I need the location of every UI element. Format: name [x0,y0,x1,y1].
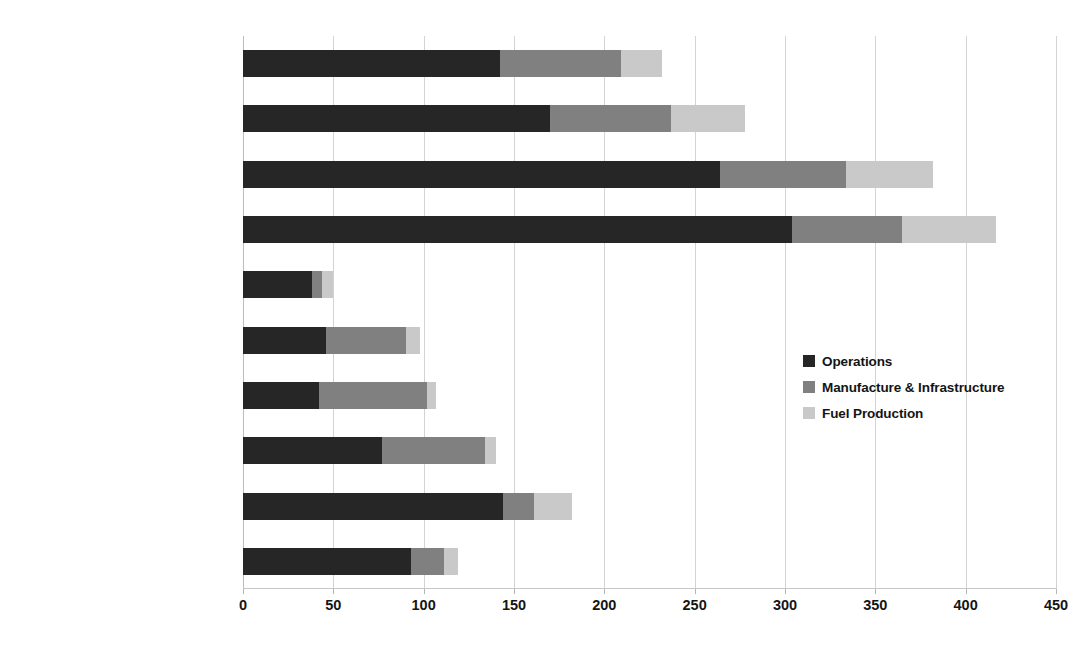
bar-segment-fuel-production[interactable] [671,105,745,132]
tick-mark-150 [514,589,515,594]
tick-mark-200 [604,589,605,594]
bar-row: Gasoline Pickup [243,147,1056,202]
bar-row: Urban Diesel Bus (Off Peak) [243,202,1056,257]
stacked-bar-chart: Gasoline SedanGasoline SUVGasoline Picku… [0,0,1092,652]
bar-segment-operations[interactable] [243,327,326,354]
x-tick-label-400: 400 [954,597,978,613]
bar-segment-manufacture-infrastructure[interactable] [326,327,405,354]
stacked-bar[interactable] [243,50,662,77]
legend-item[interactable]: Manufacture & Infrastructure [803,374,1004,400]
bar-segment-manufacture-infrastructure[interactable] [319,382,427,409]
bar-segment-fuel-production[interactable] [846,161,933,188]
x-tick-label-250: 250 [683,597,707,613]
bar-segment-manufacture-infrastructure[interactable] [312,271,323,298]
bar-segment-manufacture-infrastructure[interactable] [411,548,444,575]
stacked-bar[interactable] [243,382,436,409]
x-tick-label-50: 50 [325,597,341,613]
bar-segment-operations[interactable] [243,382,319,409]
bar-segment-manufacture-infrastructure[interactable] [720,161,846,188]
bar-row: Small Aircraft [243,478,1056,533]
legend-label: Fuel Production [822,406,923,421]
tick-mark-450 [1056,589,1057,594]
bar-segment-operations[interactable] [243,548,411,575]
x-tick-label-450: 450 [1044,597,1068,613]
bar-segment-operations[interactable] [243,50,500,77]
tick-mark-300 [785,589,786,594]
legend-swatch-icon [803,407,815,419]
bar-segment-manufacture-infrastructure[interactable] [550,105,671,132]
bar-row: Large Aircraft [243,534,1056,589]
bar-segment-fuel-production[interactable] [534,493,572,520]
tick-mark-350 [875,589,876,594]
bar-segment-manufacture-infrastructure[interactable] [500,50,621,77]
bar-row: Urban Diesel Bus (Peak) [243,257,1056,312]
bar-segment-fuel-production[interactable] [444,548,458,575]
gridline-450 [1056,36,1057,589]
bar-row: Gasoline Sedan [243,36,1056,91]
stacked-bar[interactable] [243,548,458,575]
x-tick-label-150: 150 [502,597,526,613]
tick-mark-250 [695,589,696,594]
x-tick-label-350: 350 [863,597,887,613]
x-tick-label-100: 100 [412,597,436,613]
plot-area: Gasoline SedanGasoline SUVGasoline Picku… [243,36,1056,589]
bar-row: Light Rail (Boston Green Line) [243,423,1056,478]
bar-row: Gasoline SUV [243,91,1056,146]
stacked-bar[interactable] [243,161,933,188]
bar-segment-manufacture-infrastructure[interactable] [792,216,902,243]
x-tick-label-200: 200 [592,597,616,613]
bar-segment-operations[interactable] [243,437,382,464]
chart-legend: OperationsManufacture & InfrastructureFu… [803,348,1004,426]
bar-segment-operations[interactable] [243,161,720,188]
legend-swatch-icon [803,355,815,367]
bar-segment-operations[interactable] [243,216,792,243]
bar-segment-operations[interactable] [243,271,312,298]
bar-segment-manufacture-infrastructure[interactable] [382,437,485,464]
tick-mark-100 [424,589,425,594]
tick-mark-400 [966,589,967,594]
bar-segment-fuel-production[interactable] [322,271,333,298]
stacked-bar[interactable] [243,437,496,464]
x-tick-label-300: 300 [773,597,797,613]
stacked-bar[interactable] [243,216,996,243]
bar-segment-fuel-production[interactable] [427,382,436,409]
bar-segment-operations[interactable] [243,493,503,520]
stacked-bar[interactable] [243,271,333,298]
tick-mark-50 [333,589,334,594]
bar-rows: Gasoline SedanGasoline SUVGasoline Picku… [243,36,1056,589]
legend-swatch-icon [803,381,815,393]
stacked-bar[interactable] [243,493,572,520]
stacked-bar[interactable] [243,105,745,132]
bar-segment-operations[interactable] [243,105,550,132]
x-axis-tick-labels: 050100150200250300350400450 [243,597,1056,623]
bar-segment-fuel-production[interactable] [621,50,663,77]
legend-label: Operations [822,354,892,369]
legend-item[interactable]: Operations [803,348,1004,374]
tick-mark-0 [243,589,244,594]
bar-segment-fuel-production[interactable] [902,216,996,243]
stacked-bar[interactable] [243,327,420,354]
bar-segment-fuel-production[interactable] [485,437,496,464]
legend-item[interactable]: Fuel Production [803,400,1004,426]
x-tick-label-0: 0 [239,597,247,613]
legend-label: Manufacture & Infrastructure [822,380,1004,395]
bar-segment-manufacture-infrastructure[interactable] [503,493,534,520]
bar-segment-fuel-production[interactable] [406,327,420,354]
